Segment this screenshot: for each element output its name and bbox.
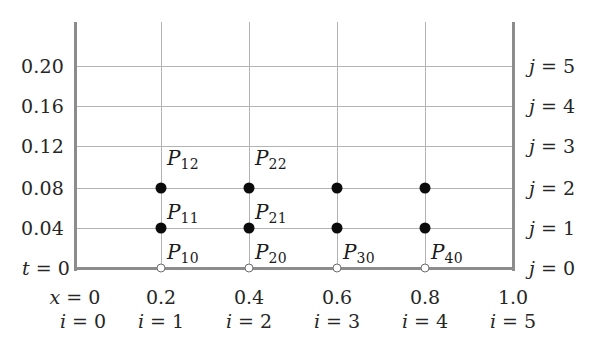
point-label-P20: P20 bbox=[255, 240, 287, 266]
gridline-horizontal-t020 bbox=[75, 66, 515, 67]
point-label-P10-symbol: P bbox=[167, 240, 180, 264]
point-label-P22: P22 bbox=[255, 146, 287, 172]
point-label-P11-symbol: P bbox=[167, 200, 180, 224]
grid-figure: 0.20 0.16 0.12 0.08 0.04 t = 0 j = 5 j =… bbox=[0, 0, 594, 339]
data-point-filled-P21 bbox=[244, 223, 255, 234]
point-label-P20-symbol: P bbox=[255, 240, 268, 264]
i-label-5: i = 5 bbox=[490, 310, 536, 332]
point-label-P11-subscript: 11 bbox=[180, 210, 198, 226]
data-point-open-P30 bbox=[333, 264, 342, 273]
point-label-P30-symbol: P bbox=[343, 240, 356, 264]
point-label-P40-subscript: 40 bbox=[444, 250, 462, 266]
point-label-P11: P11 bbox=[167, 200, 199, 226]
point-label-P22-symbol: P bbox=[255, 146, 268, 170]
x-tick-label-04: 0.4 bbox=[234, 286, 264, 308]
point-label-P10: P10 bbox=[167, 240, 199, 266]
j-label-2: j = 2 bbox=[529, 177, 575, 199]
data-point-filled-P41 bbox=[420, 223, 431, 234]
gridline-horizontal-t004 bbox=[75, 228, 515, 229]
data-point-open-P20 bbox=[245, 264, 254, 273]
axis-right-vertical bbox=[512, 22, 515, 271]
y-origin-variable: t bbox=[22, 257, 30, 279]
data-point-open-P40 bbox=[421, 264, 430, 273]
data-point-filled-P12 bbox=[156, 183, 167, 194]
point-label-P21: P21 bbox=[255, 200, 287, 226]
i-label-4: i = 4 bbox=[402, 310, 448, 332]
j-label-3: j = 3 bbox=[529, 135, 575, 157]
j-label-4-value: = 4 bbox=[535, 95, 575, 117]
i-label-1: i = 1 bbox=[138, 310, 184, 332]
x-origin-label: x = 0 bbox=[50, 286, 101, 308]
point-label-P20-subscript: 20 bbox=[268, 250, 286, 266]
point-label-P40: P40 bbox=[431, 240, 463, 266]
data-point-filled-P22 bbox=[244, 183, 255, 194]
x-tick-label-08: 0.8 bbox=[410, 286, 440, 308]
j-label-4: j = 4 bbox=[529, 95, 575, 117]
point-label-P30: P30 bbox=[343, 240, 375, 266]
point-label-P40-symbol: P bbox=[431, 240, 444, 264]
j-label-5: j = 5 bbox=[529, 55, 575, 77]
j-label-1-value: = 1 bbox=[535, 217, 575, 239]
j-label-5-value: = 5 bbox=[535, 55, 575, 77]
y-tick-label-008: 0.08 bbox=[0, 177, 64, 199]
data-point-open-P10 bbox=[157, 264, 166, 273]
axis-bottom-horizontal bbox=[74, 267, 515, 270]
x-tick-label-06: 0.6 bbox=[322, 286, 352, 308]
point-label-P10-subscript: 10 bbox=[180, 250, 198, 266]
y-tick-label-020: 0.20 bbox=[0, 55, 64, 77]
point-label-P22-subscript: 22 bbox=[268, 156, 286, 172]
point-label-P30-subscript: 30 bbox=[356, 250, 374, 266]
data-point-filled-P32 bbox=[332, 183, 343, 194]
i-label-0: i = 0 bbox=[60, 310, 106, 332]
j-label-2-value: = 2 bbox=[535, 177, 575, 199]
j-label-1: j = 1 bbox=[529, 217, 575, 239]
j-label-3-value: = 3 bbox=[535, 135, 575, 157]
y-tick-label-012: 0.12 bbox=[0, 135, 64, 157]
i-label-0-value: = 0 bbox=[66, 310, 106, 332]
i-label-1-value: = 1 bbox=[144, 310, 184, 332]
i-label-3: i = 3 bbox=[314, 310, 360, 332]
i-label-2: i = 2 bbox=[226, 310, 272, 332]
point-label-P21-subscript: 21 bbox=[268, 210, 286, 226]
data-point-filled-P31 bbox=[332, 223, 343, 234]
y-origin-value: = 0 bbox=[30, 257, 70, 279]
data-point-filled-P11 bbox=[156, 223, 167, 234]
axis-left-vertical bbox=[74, 22, 77, 271]
gridline-horizontal-t012 bbox=[75, 146, 515, 147]
j-label-0-value: = 0 bbox=[535, 257, 575, 279]
point-label-P12-subscript: 12 bbox=[180, 156, 198, 172]
i-label-4-value: = 4 bbox=[408, 310, 448, 332]
data-point-filled-P42 bbox=[420, 183, 431, 194]
gridline-horizontal-t008 bbox=[75, 188, 515, 189]
y-tick-label-004: 0.04 bbox=[0, 217, 64, 239]
x-origin-variable: x bbox=[50, 286, 61, 308]
j-label-0: j = 0 bbox=[529, 257, 575, 279]
point-label-P12-symbol: P bbox=[167, 146, 180, 170]
point-label-P12: P12 bbox=[167, 146, 199, 172]
x-tick-label-02: 0.2 bbox=[146, 286, 176, 308]
i-label-5-value: = 5 bbox=[496, 310, 536, 332]
x-origin-value: = 0 bbox=[60, 286, 100, 308]
y-origin-label: t = 0 bbox=[22, 257, 70, 279]
i-label-3-value: = 3 bbox=[320, 310, 360, 332]
y-tick-label-016: 0.16 bbox=[0, 95, 64, 117]
i-label-2-value: = 2 bbox=[232, 310, 272, 332]
gridline-horizontal-t016 bbox=[75, 106, 515, 107]
x-tick-label-10: 1.0 bbox=[498, 286, 528, 308]
point-label-P21-symbol: P bbox=[255, 200, 268, 224]
